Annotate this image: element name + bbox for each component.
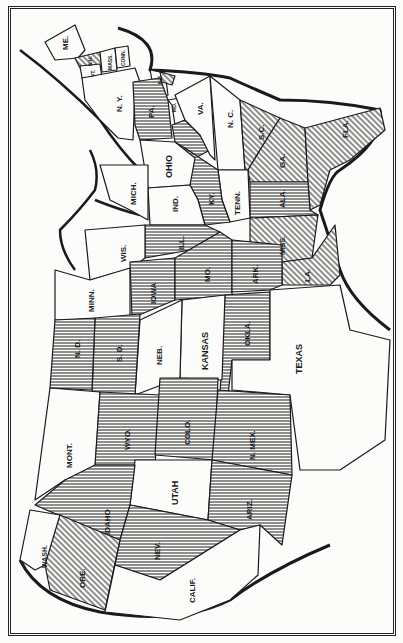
label-ohio: OHIO — [164, 155, 174, 178]
label-ill: ILL. — [177, 236, 186, 250]
state-colo[interactable] — [155, 378, 218, 460]
label-utah: UTAH — [170, 481, 180, 505]
label-nh: N.H. — [87, 55, 93, 66]
label-wyo: WYO. — [123, 429, 132, 450]
label-ark: ARK. — [251, 264, 260, 284]
label-ky: KY. — [207, 193, 216, 205]
label-md: MD. — [171, 102, 177, 112]
label-ariz: ARIZ. — [245, 499, 254, 520]
label-mass: MASS. — [107, 54, 113, 70]
label-wis: WIS. — [119, 245, 128, 262]
label-sc: S.C. — [257, 124, 266, 140]
label-nev: NEV. — [153, 542, 162, 560]
label-fla: FLA. — [341, 120, 350, 138]
label-me: ME. — [61, 36, 70, 50]
label-ore: ORE. — [78, 568, 87, 588]
label-vt: VT. — [90, 69, 96, 77]
label-colo: COLO. — [183, 420, 192, 445]
label-neb: NEB. — [155, 346, 164, 365]
label-nj: N.J. — [157, 74, 163, 84]
label-la: LA. — [303, 269, 312, 282]
state-ny[interactable] — [82, 68, 140, 140]
us-map: ME. VT. N.H. MASS. CONN. N. Y. N.J. PA. … — [0, 0, 403, 643]
label-sd: S. D. — [115, 344, 124, 362]
label-wash: WASH. — [41, 545, 48, 568]
label-mich: MICH. — [129, 182, 138, 205]
label-texas: TEXAS — [294, 344, 304, 374]
state-wyo[interactable] — [95, 392, 160, 465]
label-okla: OKLA. — [243, 321, 252, 346]
label-mont: MONT. — [65, 443, 74, 468]
label-idaho: IDAHO — [103, 509, 112, 535]
label-va: VA. — [196, 102, 205, 115]
label-nmex: N. MEX. — [248, 430, 257, 460]
label-calif: CALIF. — [188, 578, 197, 603]
label-ind: IND. — [171, 196, 180, 212]
label-tenn: TENN. — [233, 191, 242, 215]
label-nc: N. C. — [226, 110, 235, 128]
label-pa: PA. — [147, 105, 156, 118]
label-ala: ALA. — [278, 189, 287, 208]
label-kansas: KANSAS — [200, 332, 210, 370]
label-iowa: IOWA — [149, 282, 158, 304]
label-nd: N. D. — [73, 340, 82, 358]
label-minn: MINN. — [87, 289, 96, 312]
label-mo: MO. — [203, 267, 212, 282]
label-conn: CONN. — [120, 49, 126, 66]
label-ga: GA. — [278, 154, 287, 168]
label-ny: N. Y. — [115, 95, 124, 112]
label-miss: MISS. — [279, 236, 286, 255]
